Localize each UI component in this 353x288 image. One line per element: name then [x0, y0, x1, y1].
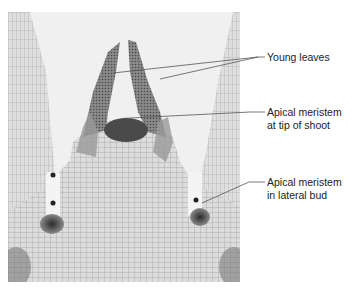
leader-line-lateral-bud [202, 182, 265, 203]
leader-line-young-leaves-2 [160, 57, 258, 79]
label-line: in lateral bud [267, 189, 342, 202]
label-line: at tip of shoot [267, 119, 342, 132]
figure: Young leaves Apical meristem at tip of s… [0, 0, 353, 288]
label-line: Apical meristem [267, 106, 342, 119]
leader-line-apical-tip [130, 112, 265, 118]
label-line: Apical meristem [267, 176, 342, 189]
leader-line-young-leaves-1 [113, 57, 265, 73]
label-apical-meristem-tip: Apical meristem at tip of shoot [267, 106, 342, 132]
label-young-leaves: Young leaves [267, 51, 330, 64]
leader-lines [0, 0, 353, 288]
label-line: Young leaves [267, 51, 330, 64]
label-apical-meristem-lateral: Apical meristem in lateral bud [267, 176, 342, 202]
